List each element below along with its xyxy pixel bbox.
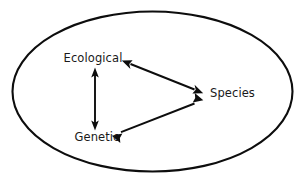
diagram-canvas: Ecological Species Genetic bbox=[0, 0, 305, 186]
node-label-genetic: Genetic bbox=[74, 130, 119, 144]
node-label-ecological: Ecological bbox=[64, 51, 123, 65]
node-label-species: Species bbox=[210, 86, 255, 100]
diagram-svg: Ecological Species Genetic bbox=[0, 0, 305, 186]
